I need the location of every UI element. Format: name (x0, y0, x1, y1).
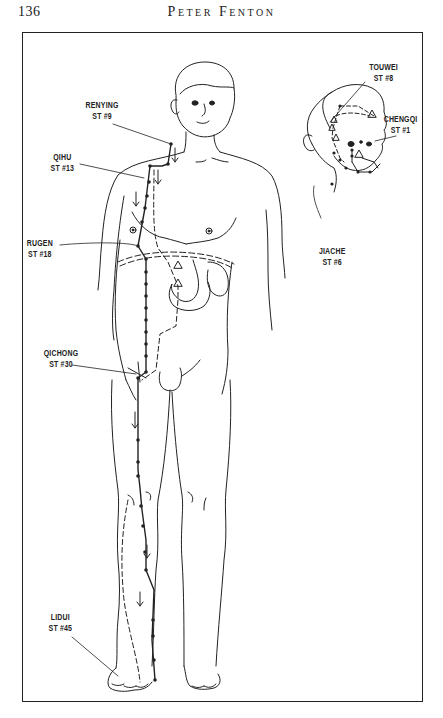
label-chengqi-name: CHENGQI (384, 114, 418, 125)
label-touwei-code: ST #8 (369, 73, 398, 84)
label-chengqi-code: ST #1 (384, 125, 418, 136)
label-touwei: TOUWEI ST #8 (369, 62, 398, 84)
label-jiache: JIACHE ST #6 (319, 246, 346, 268)
label-renying-name: RENYING (86, 100, 119, 111)
label-renying: RENYING ST #9 (86, 100, 119, 122)
label-lidui-code: ST #45 (49, 623, 72, 634)
head-profile (303, 85, 386, 192)
label-lidui-name: LIDUI (49, 612, 72, 623)
leader-lines (60, 82, 396, 676)
label-qihu-code: ST #13 (51, 163, 74, 174)
label-touwei-name: TOUWEI (369, 62, 398, 73)
label-renying-code: ST #9 (86, 111, 119, 122)
label-rugen-code: ST #18 (27, 249, 53, 260)
label-rugen-name: RUGEN (27, 238, 53, 249)
label-qichong-name: QICHONG (44, 348, 78, 359)
label-qichong-code: ST #30 (44, 359, 78, 370)
label-rugen: RUGEN ST #18 (27, 238, 53, 260)
label-jiache-code: ST #6 (319, 257, 346, 268)
label-chengqi: CHENGQI ST #1 (384, 114, 418, 136)
label-jiache-name: JIACHE (319, 246, 346, 257)
label-qihu: QIHU ST #13 (51, 152, 74, 174)
body-outline (98, 62, 285, 691)
label-lidui: LIDUI ST #45 (49, 612, 72, 634)
label-qihu-name: QIHU (51, 152, 74, 163)
label-qichong: QICHONG ST #30 (44, 348, 78, 370)
